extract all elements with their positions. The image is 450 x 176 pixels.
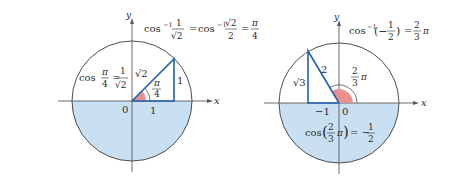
svg-text:−1: −1 — [163, 21, 173, 29]
svg-text:2: 2 — [388, 32, 394, 42]
left-angle-label: π 4 — [152, 78, 161, 99]
right-height-label: √3 — [293, 77, 306, 88]
left-arccos-equation: cos −1 1 √2 = cos −1 √2 2 = π 4 — [144, 18, 259, 41]
svg-text:π: π — [251, 18, 259, 28]
svg-text:1: 1 — [120, 66, 126, 76]
unit-circle-diagrams: x y 0 1 1 √2 π 4 cos π 4 = 1 √2 cos −1 1 — [0, 0, 450, 176]
left-height-label: 1 — [177, 75, 183, 86]
svg-text:1: 1 — [388, 20, 394, 30]
svg-text:2: 2 — [352, 66, 358, 76]
left-base-label: 1 — [150, 105, 156, 116]
svg-text:=: = — [404, 25, 412, 36]
svg-text:√2: √2 — [225, 18, 236, 28]
left-x-arrow-icon — [207, 99, 213, 103]
left-origin-label: 0 — [122, 104, 128, 115]
svg-text:cos: cos — [305, 127, 322, 138]
right-base-label: −1 — [315, 106, 330, 117]
svg-text:): ) — [396, 25, 400, 38]
left-x-label: x — [214, 95, 220, 106]
svg-text:(: ( — [322, 123, 328, 141]
svg-text:=: = — [241, 23, 249, 34]
right-arccos-equation: cos −1 (− 1 2 ) = 2 3 π — [349, 20, 430, 42]
svg-text:cos: cos — [79, 72, 96, 83]
right-y-label: y — [333, 12, 340, 22]
svg-text:): ) — [343, 123, 349, 141]
svg-text:(−: (− — [374, 25, 388, 38]
left-cos-equation: cos π 4 = 1 √2 — [79, 66, 128, 90]
svg-text:2: 2 — [228, 31, 234, 41]
left-hypotenuse-label: √2 — [135, 68, 148, 79]
svg-text:3: 3 — [352, 78, 358, 88]
svg-text:2: 2 — [328, 122, 334, 132]
svg-text:cos: cos — [349, 25, 366, 36]
left-triangle — [132, 59, 174, 101]
right-diagram: x y 0 −1 √3 2 2 3 π cos ( 2 3 π ) = − 1 … — [264, 12, 430, 174]
svg-text:cos: cos — [144, 23, 161, 34]
right-x-arrow-icon — [413, 101, 419, 105]
svg-text:1: 1 — [176, 18, 182, 28]
right-origin-label: 0 — [342, 106, 348, 117]
svg-text:4: 4 — [102, 79, 108, 89]
right-angle-label: 2 3 π — [351, 66, 368, 88]
svg-text:1: 1 — [368, 122, 374, 132]
right-x-label: x — [421, 97, 427, 108]
svg-text:√2: √2 — [115, 80, 126, 90]
svg-text:4: 4 — [154, 89, 160, 99]
svg-text:3: 3 — [414, 32, 420, 42]
svg-text:π: π — [153, 78, 161, 88]
svg-text:π: π — [422, 26, 430, 36]
svg-text:2: 2 — [414, 20, 420, 30]
svg-text:=: = — [189, 23, 197, 34]
right-triangle — [308, 51, 339, 103]
svg-text:cos: cos — [198, 23, 215, 34]
svg-text:4: 4 — [252, 31, 258, 41]
svg-text:√2: √2 — [171, 31, 182, 41]
svg-text:2: 2 — [368, 134, 374, 144]
svg-text:π: π — [101, 67, 109, 77]
svg-text:π: π — [360, 72, 368, 82]
left-y-label: y — [125, 10, 132, 20]
svg-text:3: 3 — [328, 134, 334, 144]
svg-text:= −: = − — [350, 127, 370, 138]
right-hypotenuse-label: 2 — [321, 64, 327, 75]
left-diagram: x y 0 1 1 √2 π 4 cos π 4 = 1 √2 cos −1 1 — [58, 10, 259, 172]
